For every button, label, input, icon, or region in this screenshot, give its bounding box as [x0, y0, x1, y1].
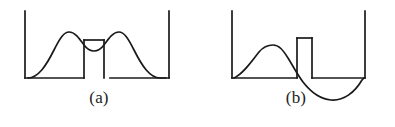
figure-panel-a: (a) [0, 0, 198, 127]
wavefunction-curve-a [28, 32, 166, 78]
diagram-a [0, 0, 198, 95]
panel-caption-b: (b) [197, 88, 395, 108]
figure-container: (a) (b) [0, 0, 395, 127]
panel-caption-a: (a) [0, 88, 198, 108]
figure-panel-b: (b) [197, 0, 395, 127]
